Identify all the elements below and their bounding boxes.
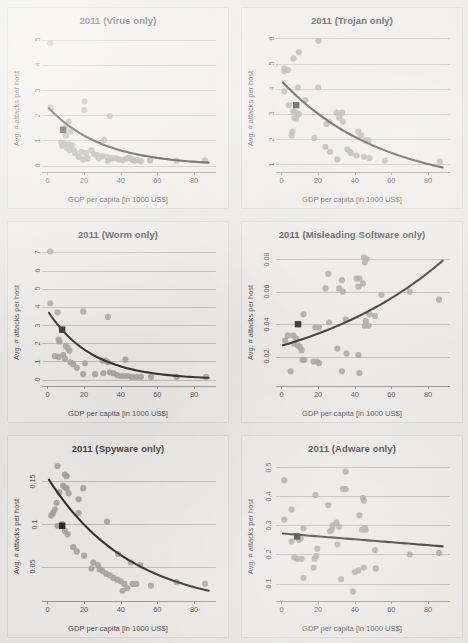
data-point [316,324,322,330]
data-point [138,374,144,380]
x-axis-tick-mark [281,601,282,604]
panel-title: 2011 (Misleading Software only) [242,229,462,240]
data-point [372,313,378,319]
x-axis-tick-mark [428,601,429,604]
data-point [105,158,111,164]
y-axis-tick-label: 0 [33,164,42,168]
data-point [326,319,332,325]
y-axis-tick-label: 4 [267,87,276,91]
data-point [296,49,302,55]
x-axis-line [276,601,450,602]
data-point [322,144,328,150]
x-axis-label: GDP per capita [in 1000 US$] [242,195,462,204]
x-axis-tick-label: 20 [80,605,88,614]
data-point [65,490,71,496]
x-axis-tick-label: 60 [153,390,161,399]
panel-title: 2011 (Adware only) [242,443,462,454]
data-point [334,156,340,162]
data-point [290,55,296,61]
data-point [54,309,60,315]
data-point [334,345,340,351]
data-point [76,496,82,502]
y-axis-tick-label: 0.4 [264,491,273,501]
data-point [92,371,98,377]
data-point [362,323,368,329]
data-point [299,347,305,353]
data-point [122,357,128,363]
data-point [100,370,106,376]
data-point [148,374,154,380]
x-axis-tick-label: 80 [190,605,198,614]
y-axis-tick-label: 2 [33,113,42,117]
data-point [314,546,320,552]
x-axis-tick-mark [121,601,122,604]
data-point [138,158,144,164]
x-axis-tick-mark [121,386,122,389]
highlight-marker [59,326,65,332]
x-axis-tick-mark [391,601,392,604]
data-point [325,502,331,508]
data-point [282,337,288,343]
y-axis-tick-label: 0.5 [264,462,273,472]
chart-panel: 2011 (Misleading Software only)Avg. # at… [234,214,468,428]
plot-area: 0.050.10.15020406080 [42,460,216,601]
x-axis-tick-label: 20 [80,176,88,185]
data-point [338,576,344,582]
y-axis-tick: 0.5 [251,463,273,471]
data-point [355,352,361,358]
y-axis-tick-label: 5 [33,38,42,42]
y-axis-tick-label: 7 [33,250,42,254]
x-axis-tick-mark [84,172,85,175]
data-point [105,314,111,320]
y-axis-tick: 0.1 [17,520,39,528]
x-axis-tick-label: 40 [117,605,125,614]
y-axis-tick: 0.08 [251,255,273,263]
x-axis-tick-mark [121,172,122,175]
x-axis-tick-mark [47,386,48,389]
x-axis-tick-mark [194,172,195,175]
data-point [362,525,368,531]
x-axis-tick-mark [391,172,392,175]
x-axis-tick-label: 60 [153,605,161,614]
panel-title: 2011 (Worm only) [8,229,228,240]
data-point [133,581,139,587]
data-point [336,524,342,530]
x-axis-tick-label: 20 [314,390,322,399]
data-point [300,525,306,531]
data-point [348,150,354,156]
chart-panel: 2011 (Adware only)Avg. # attacks per hos… [234,428,468,643]
data-point [315,38,321,44]
data-point [361,564,367,570]
data-point [286,102,292,108]
y-axis-tick-label: 0.08 [262,252,271,266]
data-point [356,512,362,518]
data-point [313,553,319,559]
data-point [88,565,94,571]
y-axis-tick: 2 [17,111,39,119]
highlight-marker [295,321,301,327]
data-point [66,347,72,353]
x-axis-tick-mark [428,172,429,175]
data-point [81,98,87,104]
y-axis-tick-label: 6 [33,269,42,273]
x-axis-tick-label: 0 [279,176,283,185]
data-point [311,135,317,141]
data-point [54,463,60,469]
x-axis-label: GDP per capita [in 1000 US$] [242,409,462,418]
panel-frame: 2011 (Worm only)Avg. # attacks per hostG… [8,222,228,422]
x-axis-tick-label: 0 [279,390,283,399]
y-axis-tick-label: 1 [33,359,42,363]
y-axis-tick: 3 [17,321,39,329]
data-point [353,153,359,159]
y-axis-tick-label: 5 [33,287,42,291]
data-point [80,485,86,491]
x-axis-tick-mark [318,386,319,389]
x-axis-tick-mark [391,386,392,389]
data-point [329,527,335,533]
y-axis-tick-label: 0.3 [264,520,273,530]
data-point [148,583,154,589]
x-axis-tick-mark [84,601,85,604]
y-axis-tick: 2 [251,135,273,143]
y-axis-tick-label: 1 [33,138,42,142]
data-point [293,116,299,122]
